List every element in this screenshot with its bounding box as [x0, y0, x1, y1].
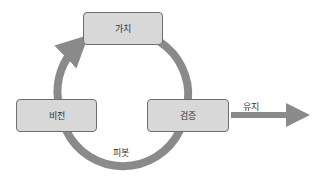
node-vision-label: 비전 — [49, 109, 65, 122]
node-value: 가치 — [83, 12, 163, 45]
cycle-diagram: 가치 비전 검증 유지 피봇 — [0, 0, 321, 180]
node-validation-label: 검증 — [180, 109, 196, 122]
label-persevere: 유지 — [243, 100, 259, 113]
arrow-vision-to-value — [57, 46, 77, 100]
label-pivot: 피봇 — [113, 146, 129, 159]
node-value-label: 가치 — [115, 22, 131, 35]
node-validation: 검증 — [147, 99, 229, 132]
node-vision: 비전 — [16, 99, 97, 132]
arrow-value-to-validation — [160, 42, 188, 100]
